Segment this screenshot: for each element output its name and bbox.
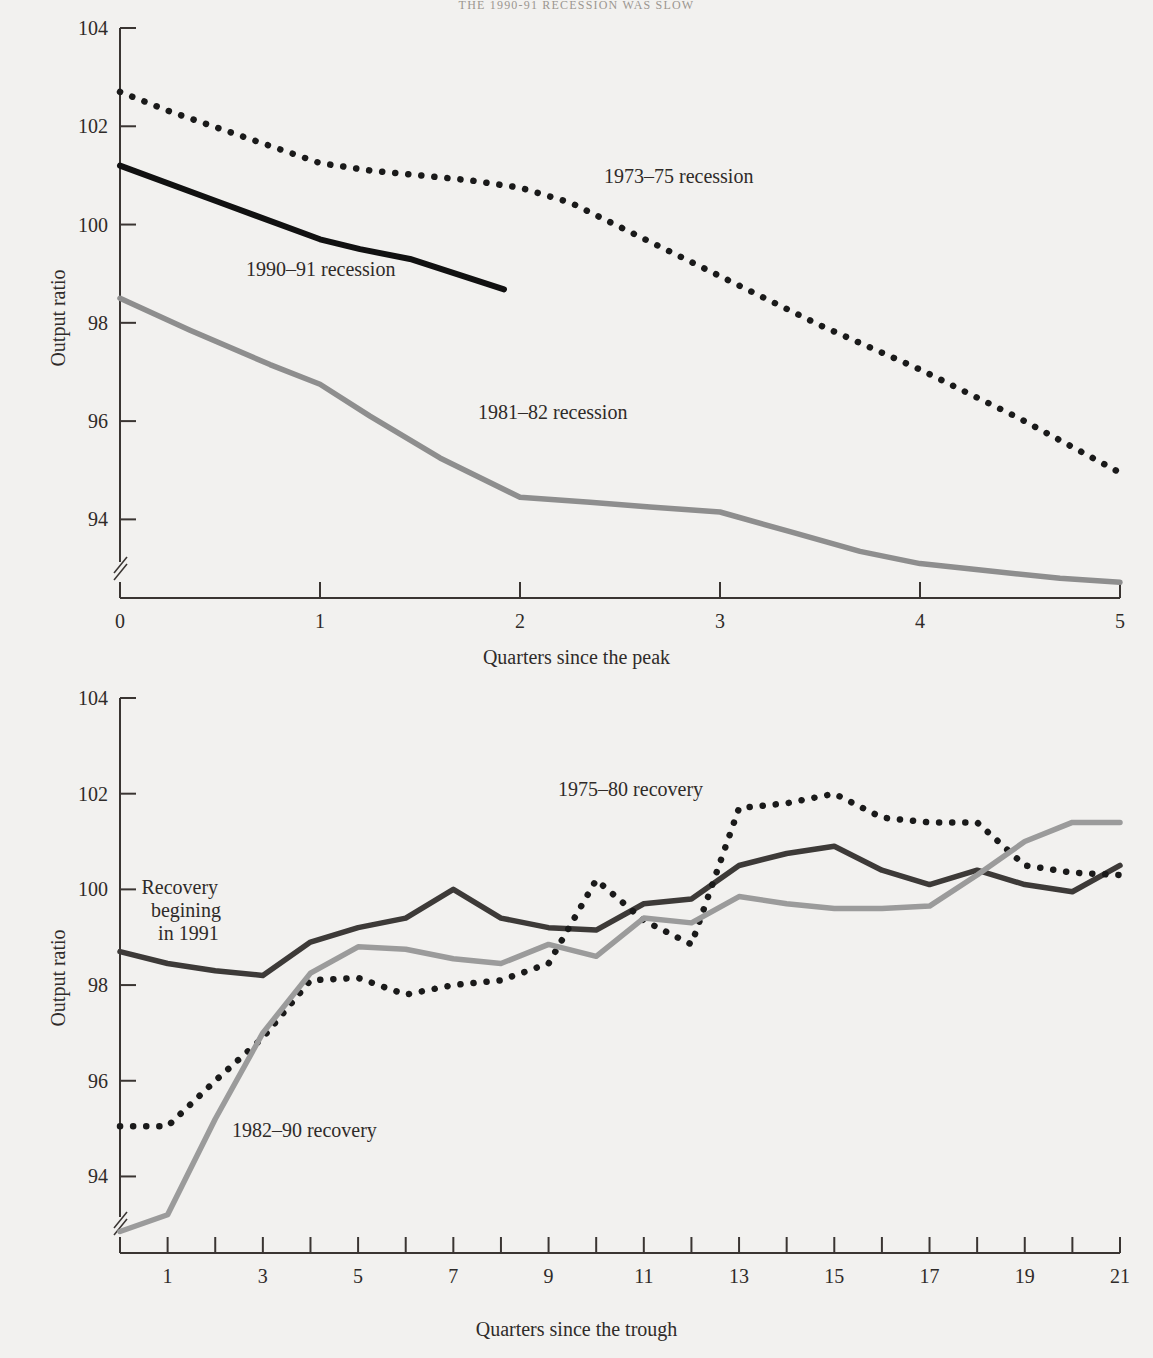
series-annotation: 1975–80 recovery — [558, 778, 703, 802]
x-axis-label: Quarters since the trough — [0, 1318, 1153, 1341]
x-tick-label: 7 — [448, 1265, 458, 1288]
axis-break-slash — [114, 564, 127, 580]
series-annotation: 1990–91 recession — [246, 258, 395, 282]
series-line — [120, 822, 1120, 1231]
series-line-dotted — [120, 794, 1120, 1127]
series-annotation: begining — [151, 899, 221, 923]
series-annotation: 1981–82 recession — [478, 401, 627, 425]
series-annotation: in 1991 — [158, 922, 219, 946]
x-tick-label: 5 — [1115, 610, 1125, 633]
y-axis-label: Output ratio — [47, 929, 70, 1026]
x-tick-label: 0 — [115, 610, 125, 633]
y-tick-label: 102 — [78, 115, 108, 138]
y-tick-label: 102 — [78, 782, 108, 805]
y-tick-label: 96 — [88, 1069, 108, 1092]
x-tick-label: 11 — [634, 1265, 653, 1288]
x-tick-label: 17 — [920, 1265, 940, 1288]
y-tick-label: 94 — [88, 1165, 108, 1188]
x-tick-label: 4 — [915, 610, 925, 633]
y-tick-label: 104 — [78, 17, 108, 40]
x-tick-label: 3 — [258, 1265, 268, 1288]
y-tick-label: 98 — [88, 311, 108, 334]
running-head: THE 1990-91 RECESSION WAS SLOW — [0, 0, 1153, 13]
series-line — [120, 846, 1120, 975]
x-tick-label: 21 — [1110, 1265, 1130, 1288]
x-tick-label: 19 — [1015, 1265, 1035, 1288]
x-tick-label: 3 — [715, 610, 725, 633]
chart-panel-recoveries: Output ratio Quarters since the trough 1… — [0, 678, 1153, 1358]
x-axis-label: Quarters since the peak — [0, 646, 1153, 669]
x-tick-label: 1 — [315, 610, 325, 633]
plot-area — [120, 28, 1122, 638]
y-tick-label: 100 — [78, 878, 108, 901]
y-tick-label: 94 — [88, 508, 108, 531]
chart-panel-recessions: Output ratio Quarters since the peak 104… — [0, 18, 1153, 678]
series-annotation: Recovery — [141, 876, 218, 900]
x-tick-label: 15 — [824, 1265, 844, 1288]
x-tick-label: 2 — [515, 610, 525, 633]
x-tick-label: 1 — [163, 1265, 173, 1288]
series-annotation: 1982–90 recovery — [232, 1119, 377, 1143]
x-tick-label: 13 — [729, 1265, 749, 1288]
y-tick-label: 98 — [88, 974, 108, 997]
figure-page: THE 1990-91 RECESSION WAS SLOW Output ra… — [0, 0, 1153, 1358]
series-line — [120, 298, 1120, 582]
y-tick-label: 96 — [88, 410, 108, 433]
y-tick-label: 104 — [78, 687, 108, 710]
series-annotation: 1973–75 recession — [604, 165, 753, 189]
y-tick-label: 100 — [78, 213, 108, 236]
x-tick-label: 5 — [353, 1265, 363, 1288]
x-tick-label: 9 — [544, 1265, 554, 1288]
y-axis-label: Output ratio — [47, 269, 70, 366]
